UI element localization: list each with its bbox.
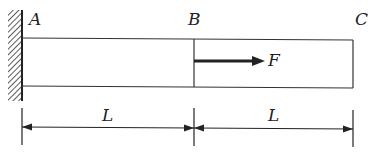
label-length-bc: L (267, 105, 279, 125)
arrowhead-icon (194, 125, 204, 132)
arrowhead-icon (184, 125, 194, 132)
dimension-lines (22, 108, 353, 147)
label-point-a: A (27, 9, 41, 29)
force-arrow (194, 56, 265, 66)
arrowhead-icon (22, 124, 32, 131)
bar (22, 38, 353, 88)
label-point-c: C (355, 9, 368, 29)
cantilever-diagram: A B C F L L (0, 0, 373, 157)
label-length-ab: L (101, 105, 113, 125)
label-force: F (267, 50, 281, 70)
label-point-b: B (187, 9, 201, 29)
arrowhead-icon (343, 126, 353, 133)
fixed-wall-support (8, 10, 22, 101)
